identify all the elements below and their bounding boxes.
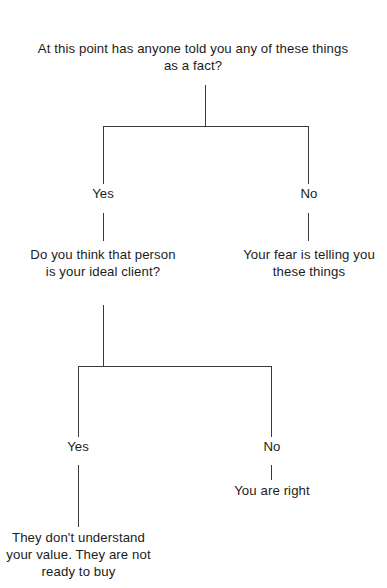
flowchart-connectors [0,0,387,588]
flowchart-canvas: At this point has anyone told you any of… [0,0,387,588]
edge-label-ideal-no: No [242,439,302,455]
edge-label-root-yes: Yes [73,186,133,202]
node-root-question: At this point has anyone told you any of… [33,40,353,74]
node-not-ready-outcome: They don't understand your value. They a… [0,529,157,580]
edge-label-ideal-yes: Yes [48,439,108,455]
node-ideal-client-question: Do you think that person is your ideal c… [28,246,178,280]
node-you-are-right-outcome: You are right [212,482,332,499]
node-fear-outcome: Your fear is telling you these things [234,246,384,280]
edge-label-root-no: No [279,186,339,202]
